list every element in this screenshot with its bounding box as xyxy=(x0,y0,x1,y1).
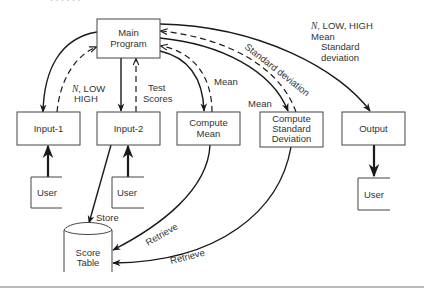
input2-label: Input-2 xyxy=(114,123,144,134)
main-program-line2: Program xyxy=(110,38,147,49)
compute-mean-line2: Mean xyxy=(197,128,221,139)
output-label: Output xyxy=(359,123,388,134)
cropped-top-text: · · · · · · xyxy=(50,0,81,5)
label-retrieve-mean: Retrieve xyxy=(144,221,180,248)
node-user3[interactable]: User xyxy=(358,178,390,210)
label-output-n-low-high: N, LOW, HIGH xyxy=(310,20,373,31)
input1-label: Input-1 xyxy=(34,123,64,134)
label-high: HIGH xyxy=(74,93,98,104)
node-score-table[interactable]: Score Table xyxy=(64,223,112,273)
node-user2[interactable]: User xyxy=(112,177,144,208)
label-output-deviation: deviation xyxy=(321,52,359,63)
score-table-line2: Table xyxy=(77,257,100,268)
label-mean-to-sd: Mean xyxy=(248,98,272,109)
label-mean-return: Mean xyxy=(214,76,238,87)
user3-label: User xyxy=(364,189,384,200)
node-compute-mean[interactable]: Compute Mean xyxy=(177,112,240,145)
svg-text:· · · · · ·: · · · · · · xyxy=(50,0,81,5)
user1-label: User xyxy=(37,187,57,198)
node-output[interactable]: Output xyxy=(342,112,405,145)
node-main-program[interactable]: Main Program xyxy=(97,19,160,58)
user2-label: User xyxy=(117,187,137,198)
label-test: Test xyxy=(148,82,166,93)
label-scores: Scores xyxy=(143,93,173,104)
node-input1[interactable]: Input-1 xyxy=(17,112,80,145)
node-input2[interactable]: Input-2 xyxy=(97,112,160,145)
main-program-line1: Main xyxy=(118,27,139,38)
structure-chart-diagram: · · · · · · Main Program Input-1 Input-2 xyxy=(0,0,424,292)
compute-sd-line3: Deviation xyxy=(272,133,312,144)
node-compute-standard-deviation[interactable]: Compute Standard Deviation xyxy=(260,112,323,147)
label-store: Store xyxy=(96,212,119,223)
label-output-standard: Standard xyxy=(321,41,360,52)
compute-mean-line1: Compute xyxy=(189,117,228,128)
node-user1[interactable]: User xyxy=(31,177,62,208)
label-retrieve-sd: Retrieve xyxy=(169,247,206,266)
